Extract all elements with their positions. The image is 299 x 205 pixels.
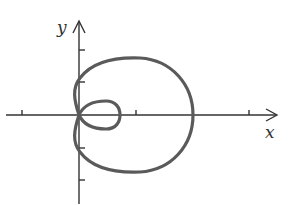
y-axis-label: y — [57, 17, 67, 37]
plot-canvas — [0, 0, 299, 205]
x-axis — [6, 109, 277, 121]
x-axis-label: x — [265, 122, 275, 142]
limacon-figure: y x — [0, 0, 299, 205]
